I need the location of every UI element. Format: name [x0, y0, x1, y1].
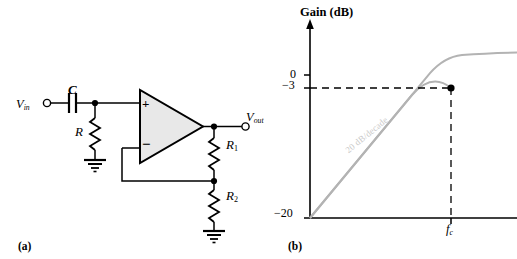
y-tick-label-minus20: −20 [274, 207, 293, 219]
output-voltage-label: Vout [246, 111, 264, 125]
wire-feedback-loop [122, 148, 214, 181]
figure-container: Vin C R Vout R1 R2 + − (a) [0, 0, 517, 259]
resistor-r-label: R [75, 125, 83, 138]
opamp-triangle [140, 90, 203, 163]
plot-panel: Gain (dB) 0 −3 −20 fc 20 dB/decade (b) [262, 0, 517, 259]
ground-symbol-output [203, 231, 225, 243]
gain-curve-ramp [310, 81, 451, 218]
opamp-minus-input-label: − [142, 137, 151, 152]
input-terminal-node [43, 99, 50, 106]
input-voltage-label: Vin [16, 98, 30, 112]
ground-symbol-input [84, 160, 106, 172]
x-tick-label-fc: fc [446, 223, 453, 237]
y-tick-label-minus3: −3 [282, 79, 295, 91]
panel-b-caption: (b) [288, 240, 302, 252]
resistor-r2-symbol [209, 190, 219, 222]
panel-a-caption: (a) [18, 240, 31, 252]
cutoff-point-marker [447, 84, 454, 91]
resistor-r1-symbol [209, 138, 219, 170]
circuit-panel: Vin C R Vout R1 R2 + − (a) [0, 0, 262, 259]
resistor-r2-label: R2 [226, 189, 238, 204]
gain-curve [310, 53, 517, 219]
bode-plot-graphic [262, 0, 517, 259]
y-axis-label: Gain (dB) [300, 6, 353, 19]
capacitor-label: C [68, 83, 77, 96]
resistor-r-symbol [90, 118, 100, 150]
opamp-plus-input-label: + [142, 97, 149, 110]
circuit-schematic [0, 0, 262, 259]
resistor-r1-label: R1 [226, 138, 238, 153]
y-axis-arrowhead [306, 19, 314, 29]
